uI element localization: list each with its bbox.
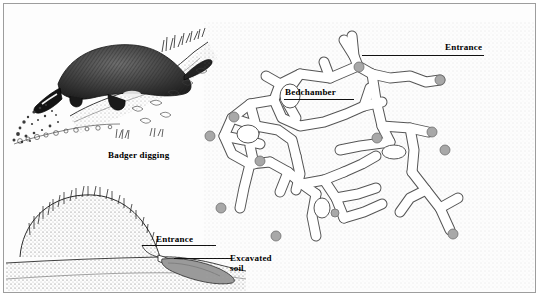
sett-plan	[204, 22, 534, 290]
bedchamber-label: Bedchamber	[285, 87, 336, 97]
hill-mound	[20, 195, 160, 257]
badger-digging-caption: Badger digging	[108, 150, 169, 160]
entrance-label-cross-section: Entrance	[156, 234, 193, 244]
entrance-leader-line-sett-plan	[362, 55, 484, 56]
bedchamber-leader-line	[284, 99, 354, 100]
figure-plate: Badger digging	[3, 3, 536, 293]
entrance-dot-main	[354, 62, 364, 72]
badger-digging-illustration	[12, 12, 222, 147]
entrance-label-sett-plan: Entrance	[445, 42, 482, 52]
badger-body	[34, 45, 212, 114]
grass-tuft-lower	[116, 128, 163, 139]
